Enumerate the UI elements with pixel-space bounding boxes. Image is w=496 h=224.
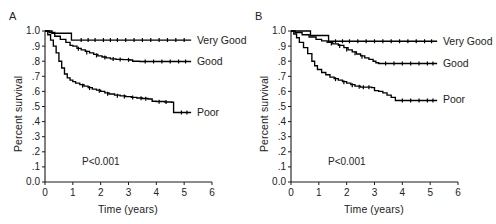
panel-b-x-tick-label: 3 (372, 187, 378, 198)
panel-a-x-tick-label: 3 (126, 187, 132, 198)
panel-a-y-tick-label: .8 (32, 56, 41, 67)
panel-a-x-tick-label: 1 (70, 187, 76, 198)
panel-a-curve-label-very-good: Very Good (197, 34, 247, 46)
survival-figure: A Percent survival Time (years) P<0.001 … (0, 0, 496, 224)
panel-a-curve-label-good: Good (197, 55, 223, 67)
panel-b-y-tick-label: .8 (278, 56, 287, 67)
panel-a-y-tick-label: .4 (32, 116, 41, 127)
panel-a-y-tick-label: .5 (32, 101, 41, 112)
panel-a-y-tick-label: .9 (32, 41, 41, 52)
panel-a-curve-label-poor: Poor (197, 106, 220, 118)
panel-b-y-tick-label: .1 (278, 161, 287, 172)
panel-a-curve-good (45, 31, 191, 62)
panel-a-y-tick-label: .7 (32, 71, 41, 82)
panel-a-x-tick-label: 4 (154, 187, 160, 198)
panel-a-y-tick-label: .1 (32, 161, 41, 172)
panel-b-y-tick-label: 1.0 (272, 25, 286, 36)
panel-a-x-tick-label: 5 (181, 187, 187, 198)
panel-a-plot: 0.0.1.2.3.4.5.6.7.8.91.00123456Very Good… (0, 0, 248, 224)
panel-a-curve-poor (45, 31, 191, 113)
panel-a-y-tick-label: .3 (32, 131, 41, 142)
panel-b-axis-lines (291, 31, 458, 182)
panel-b-y-tick-label: .2 (278, 146, 287, 157)
panel-b-curve-label-good: Good (443, 57, 469, 69)
panel-b-y-tick-label: .9 (278, 41, 287, 52)
panel-b-x-tick-label: 2 (344, 187, 350, 198)
panel-a: A Percent survival Time (years) P<0.001 … (0, 0, 248, 224)
panel-a-y-tick-label: 0.0 (26, 176, 40, 187)
panel-b-y-tick-label: .7 (278, 71, 287, 82)
panel-b: B Percent survival Time (years) P<0.001 … (248, 0, 496, 224)
panel-a-y-tick-label: 1.0 (26, 25, 40, 36)
panel-b-x-tick-label: 0 (288, 187, 294, 198)
panel-b-x-tick-label: 5 (427, 187, 433, 198)
panel-a-axis-lines (45, 31, 212, 182)
panel-a-y-tick-label: .2 (32, 146, 41, 157)
panel-b-plot: 0.0.1.2.3.4.5.6.7.8.91.00123456Very Good… (248, 0, 496, 224)
panel-b-y-tick-label: .4 (278, 116, 287, 127)
panel-a-x-tick-label: 0 (42, 187, 48, 198)
panel-b-y-tick-label: .5 (278, 101, 287, 112)
panel-a-y-tick-label: .6 (32, 86, 41, 97)
panel-b-x-tick-label: 4 (400, 187, 406, 198)
panel-b-y-tick-label: 0.0 (272, 176, 286, 187)
panel-b-x-tick-label: 1 (316, 187, 322, 198)
panel-a-curve-very-good (45, 31, 191, 40)
panel-b-y-tick-label: .3 (278, 131, 287, 142)
panel-b-curve-very-good (291, 31, 437, 41)
panel-b-x-tick-label: 6 (455, 187, 461, 198)
panel-b-y-tick-label: .6 (278, 86, 287, 97)
panel-a-x-tick-label: 6 (209, 187, 215, 198)
panel-a-x-tick-label: 2 (98, 187, 104, 198)
panel-b-curve-label-poor: Poor (443, 93, 466, 105)
panel-b-curve-label-very-good: Very Good (443, 35, 493, 47)
